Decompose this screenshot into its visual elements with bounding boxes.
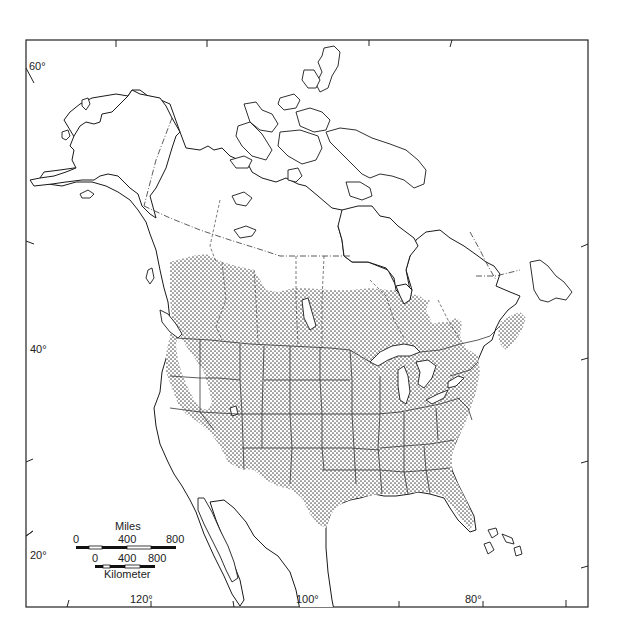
scale-miles-tick-800: 800 xyxy=(166,533,184,545)
island-nunivak xyxy=(62,130,70,140)
scale-bar: Miles 0 400 800 0 400 800 Kilometer xyxy=(73,520,184,580)
scale-miles-title: Miles xyxy=(115,520,141,532)
latitude-label-40: 40° xyxy=(30,343,47,355)
haida-gwaii xyxy=(146,268,154,284)
scale-km-tick-400: 400 xyxy=(118,552,136,564)
scale-km-tick-800: 800 xyxy=(148,552,166,564)
newfoundland xyxy=(530,260,572,302)
latitude-label-60: 60° xyxy=(29,60,46,72)
longitude-label-80: 80° xyxy=(465,593,482,605)
latitude-label-20: 20° xyxy=(30,549,47,561)
island-kodiak xyxy=(80,190,94,198)
longitude-label-100: 100° xyxy=(296,593,319,605)
scale-miles-tick-0: 0 xyxy=(73,533,79,545)
caribbean-islands xyxy=(484,528,522,556)
range-map: 60° 40° 20° 120° 100° 80° Miles 0 400 80… xyxy=(0,0,621,644)
baja-california xyxy=(198,498,238,582)
great-salt-lake xyxy=(230,406,238,416)
longitude-label-120: 120° xyxy=(130,593,153,605)
scale-km-title: Kilometer xyxy=(104,568,151,580)
scale-miles-bar xyxy=(76,546,176,549)
scale-miles-tick-400: 400 xyxy=(118,533,136,545)
scale-km-tick-0: 0 xyxy=(92,552,98,564)
